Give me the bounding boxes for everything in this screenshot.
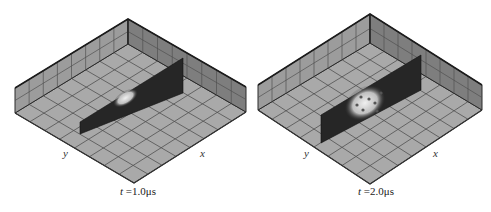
panel-2-spot xyxy=(375,109,378,112)
time-symbol: t xyxy=(120,185,123,197)
panel-2-spot xyxy=(355,103,358,106)
panel-2-spot xyxy=(359,95,362,98)
time-symbol: t xyxy=(358,185,361,197)
panel-2-spot xyxy=(379,91,382,94)
panel-2-caption: t =2.0μs xyxy=(358,186,394,197)
time-value: =1.0μs xyxy=(126,185,156,197)
figure-canvas xyxy=(0,0,491,212)
panel-2-spot xyxy=(373,101,376,104)
time-value: =2.0μs xyxy=(364,185,394,197)
panel-2-spot xyxy=(367,97,370,100)
panel-1-y-axis-label: y xyxy=(63,148,68,159)
panel-2-x-axis-label: x xyxy=(433,148,438,159)
panel-2-spot xyxy=(361,108,364,111)
panel-1-caption: t =1.0μs xyxy=(120,186,156,197)
panel-2-y-axis-label: y xyxy=(304,148,309,159)
panel-1-x-axis-label: x xyxy=(200,148,205,159)
